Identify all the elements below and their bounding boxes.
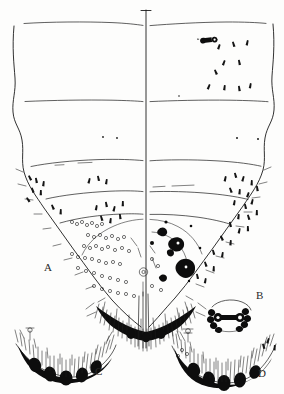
- panel-d-margin-detail: [172, 329, 276, 391]
- duct-line-2: [138, 248, 141, 257]
- spiracle-marker: [197, 36, 218, 44]
- panel-label-a: A: [44, 262, 52, 273]
- marginal-spines-left: [16, 169, 105, 302]
- segment-line-4-right: [150, 191, 248, 199]
- body-margin-right: [149, 24, 274, 327]
- panel-label-d: D: [258, 368, 266, 379]
- segment-line-3-dash-right2: [172, 185, 194, 186]
- segment-line-4-left: [46, 191, 143, 199]
- pore-dots-mid-right: [178, 95, 259, 140]
- panel-c-stalked-gland: [26, 328, 34, 340]
- setae-cluster-left-lateral: [26, 175, 108, 202]
- segment-line-3-dash-right1: [153, 186, 165, 187]
- anal-ring-inner: [142, 270, 145, 273]
- duct-line-4: [152, 258, 156, 268]
- segment-line-2-left: [25, 100, 143, 102]
- panel-label-c: C: [95, 366, 103, 377]
- pygidial-arc-right: [150, 214, 229, 223]
- segment-line-3-right: [150, 160, 261, 166]
- pore-ring-cluster-right: [150, 257, 162, 291]
- segment-line-1-left: [24, 22, 143, 25]
- panel-label-b: B: [256, 290, 264, 301]
- dark-sclerite-blotches: [150, 220, 201, 282]
- segment-line-2-right: [150, 100, 268, 102]
- body-margin-left: [13, 26, 141, 327]
- pore-dots-mid-left: [102, 136, 118, 139]
- duct-line-3: [150, 246, 155, 253]
- panel-d-lobes: [186, 361, 263, 391]
- midline-axis: [141, 10, 151, 348]
- setae-cluster-left-pygidial: [51, 201, 124, 224]
- segment-line-3-dash-left: [55, 165, 64, 166]
- marginal-spines-right: [186, 167, 271, 300]
- figure-plate: .ln{fill:none;stroke:#1b1b1b;stroke-line…: [0, 0, 284, 394]
- duct-line-1: [131, 238, 137, 246]
- segment-line-3-left: [31, 159, 143, 166]
- segment-line-3-dash-mid: [78, 162, 92, 163]
- segment-line-1-right: [150, 22, 266, 26]
- panel-b-dumbbell-detail: [207, 300, 251, 333]
- setae-cluster-upper-right: [207, 40, 253, 91]
